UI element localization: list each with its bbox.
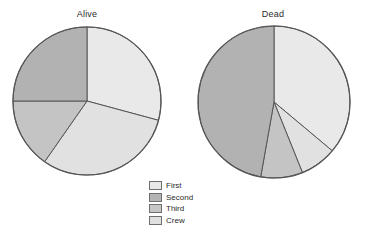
legend-label-second: Second xyxy=(166,193,193,202)
legend-swatch-second xyxy=(149,193,162,202)
pie-title-alive: Alive xyxy=(47,9,127,19)
chart-legend: First Second Third Crew xyxy=(149,180,219,226)
pie-title-dead: Dead xyxy=(233,9,313,19)
legend-label-third: Third xyxy=(166,204,184,213)
legend-swatch-first xyxy=(149,181,162,190)
pie-alive-slices xyxy=(13,27,161,175)
pie-alive-svg xyxy=(10,24,165,179)
pie-chart-figure: Alive Dead First xyxy=(0,0,365,252)
pie-dead-slices xyxy=(198,26,350,178)
legend-label-first: First xyxy=(166,181,182,190)
legend-item-crew[interactable]: Crew xyxy=(149,215,219,227)
pie-chart-alive xyxy=(10,24,165,179)
legend-item-third[interactable]: Third xyxy=(149,203,219,215)
pie-dead-svg xyxy=(195,23,353,181)
legend-item-second[interactable]: Second xyxy=(149,192,219,204)
pie-slice-alive-second[interactable] xyxy=(13,27,87,101)
pie-chart-dead xyxy=(195,23,353,181)
legend-label-crew: Crew xyxy=(166,216,185,225)
legend-item-first[interactable]: First xyxy=(149,180,219,192)
pie-slice-dead-second[interactable] xyxy=(198,26,274,177)
legend-swatch-crew xyxy=(149,216,162,225)
legend-swatch-third xyxy=(149,204,162,213)
